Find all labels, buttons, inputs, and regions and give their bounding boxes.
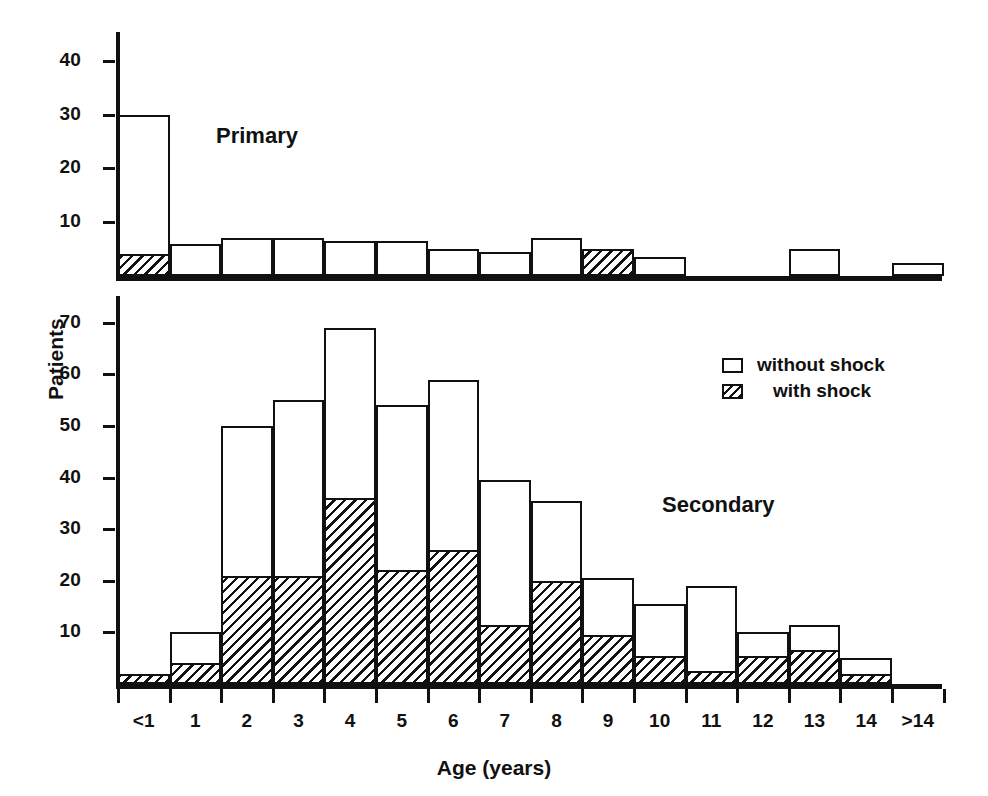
bar-shock-secondary-11 xyxy=(686,671,738,684)
bar-primary-15 xyxy=(892,263,944,276)
y-tick-label-primary-30: 30 xyxy=(39,103,81,125)
bar-primary-3 xyxy=(273,238,325,276)
bar-shock-secondary-1 xyxy=(170,663,222,684)
bar-shock-secondary-7 xyxy=(479,625,531,684)
y-tick-label-secondary-10: 10 xyxy=(39,620,81,642)
bar-primary-10 xyxy=(634,257,686,276)
x-tick-label-11: 11 xyxy=(684,710,738,732)
y-tick-secondary-70 xyxy=(103,322,115,325)
x-tick-10 xyxy=(633,689,636,703)
y-tick-secondary-40 xyxy=(103,477,115,480)
bar-shock-secondary-14 xyxy=(840,674,892,684)
y-tick-label-primary-10: 10 xyxy=(39,210,81,232)
x-tick-label-3: 3 xyxy=(272,710,326,732)
x-tick-label-13: 13 xyxy=(788,710,842,732)
y-tick-secondary-50 xyxy=(103,425,115,428)
bar-primary-7 xyxy=(479,252,531,276)
bar-shock-secondary-3 xyxy=(273,576,325,684)
x-tick-label-14: 14 xyxy=(839,710,893,732)
legend-item-without-shock: without shock xyxy=(722,352,885,378)
bar-shock-secondary-9 xyxy=(582,635,634,684)
legend-label-with-shock: with shock xyxy=(773,380,871,402)
y-tick-secondary-60 xyxy=(103,373,115,376)
x-tick-label-9: 9 xyxy=(581,710,635,732)
y-tick-label-secondary-30: 30 xyxy=(39,517,81,539)
x-tick-label-2: 2 xyxy=(220,710,274,732)
bar-shock-primary-9 xyxy=(582,249,634,276)
y-tick-label-primary-40: 40 xyxy=(39,49,81,71)
y-tick-label-secondary-60: 60 xyxy=(39,362,81,384)
chart-figure: Patients 10203040 Primary 10203040506070… xyxy=(0,0,988,796)
primary-panel-label: Primary xyxy=(216,123,298,149)
x-tick-9 xyxy=(581,689,584,703)
bar-shock-secondary-12 xyxy=(737,656,789,684)
bar-shock-secondary-8 xyxy=(531,581,583,684)
legend-swatch-without-shock-icon xyxy=(722,358,743,373)
x-tick-1 xyxy=(169,689,172,703)
x-tick-13 xyxy=(788,689,791,703)
x-tick-label-12: 12 xyxy=(736,710,790,732)
bar-primary-0 xyxy=(118,115,170,276)
y-tick-label-secondary-20: 20 xyxy=(39,569,81,591)
y-tick-primary-40 xyxy=(103,60,115,63)
bar-shock-secondary-5 xyxy=(376,570,428,684)
x-tick-label-8: 8 xyxy=(530,710,584,732)
secondary-panel-label: Secondary xyxy=(662,492,775,518)
x-tick-12 xyxy=(736,689,739,703)
y-tick-label-secondary-40: 40 xyxy=(39,466,81,488)
y-tick-primary-10 xyxy=(103,221,115,224)
bar-shock-secondary-4 xyxy=(324,498,376,684)
bar-primary-8 xyxy=(531,238,583,276)
x-tick-4 xyxy=(323,689,326,703)
bar-shock-secondary-2 xyxy=(221,576,273,684)
bar-shock-secondary-13 xyxy=(789,650,841,684)
x-tick-15 xyxy=(891,689,894,703)
x-tick-label-4: 4 xyxy=(323,710,377,732)
y-tick-label-secondary-70: 70 xyxy=(39,311,81,333)
x-tick-label-10: 10 xyxy=(633,710,687,732)
y-tick-secondary-20 xyxy=(103,580,115,583)
bar-primary-6 xyxy=(428,249,480,276)
bar-primary-1 xyxy=(170,244,222,276)
bar-shock-secondary-6 xyxy=(428,550,480,684)
y-tick-primary-30 xyxy=(103,114,115,117)
bar-shock-primary-0 xyxy=(118,254,170,276)
x-tick-label-1: 1 xyxy=(168,710,222,732)
x-tick-label->14: >14 xyxy=(891,710,945,732)
bar-shock-secondary-10 xyxy=(634,656,686,684)
bar-primary-2 xyxy=(221,238,273,276)
legend-label-without-shock: without shock xyxy=(757,354,885,376)
y-tick-label-secondary-50: 50 xyxy=(39,414,81,436)
x-tick-5 xyxy=(375,689,378,703)
primary-x-axis xyxy=(116,276,942,281)
y-tick-secondary-30 xyxy=(103,528,115,531)
x-axis-title: Age (years) xyxy=(0,756,988,780)
x-tick-7 xyxy=(478,689,481,703)
bar-secondary-11 xyxy=(686,586,738,684)
legend-swatch-with-shock-icon xyxy=(722,384,743,399)
x-tick-2 xyxy=(220,689,223,703)
x-tick-3 xyxy=(272,689,275,703)
secondary-y-axis xyxy=(116,296,120,686)
x-tick-0 xyxy=(117,689,120,703)
bar-primary-5 xyxy=(376,241,428,276)
x-tick-16 xyxy=(943,689,946,703)
bar-primary-13 xyxy=(789,249,841,276)
legend-item-with-shock: with shock xyxy=(722,378,885,404)
y-tick-label-primary-20: 20 xyxy=(39,156,81,178)
y-tick-primary-20 xyxy=(103,167,115,170)
x-tick-14 xyxy=(839,689,842,703)
x-tick-6 xyxy=(427,689,430,703)
x-tick-8 xyxy=(530,689,533,703)
x-tick-11 xyxy=(685,689,688,703)
bar-shock-secondary-0 xyxy=(118,674,170,684)
x-tick-label-<1: <1 xyxy=(117,710,171,732)
x-tick-label-6: 6 xyxy=(426,710,480,732)
chart-legend: without shock with shock xyxy=(722,352,885,404)
y-tick-secondary-10 xyxy=(103,631,115,634)
x-tick-label-5: 5 xyxy=(375,710,429,732)
bar-primary-4 xyxy=(324,241,376,276)
x-tick-label-7: 7 xyxy=(478,710,532,732)
